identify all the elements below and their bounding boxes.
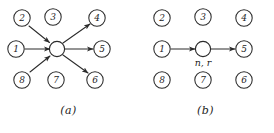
node-3-label: 3 xyxy=(50,12,56,22)
edge-hub-to-6 xyxy=(63,55,88,73)
panel-b-diagram: 2 3 4 1 5 8 7 xyxy=(137,0,274,100)
node-2-label: 2 xyxy=(158,13,165,23)
node-7-label: 7 xyxy=(200,75,206,85)
node-7: 7 xyxy=(195,72,211,88)
node-2: 2 xyxy=(14,10,30,26)
node-8: 8 xyxy=(14,72,30,88)
caption-a: (a) xyxy=(0,104,137,117)
node-4: 4 xyxy=(89,10,105,26)
node-6: 6 xyxy=(236,72,252,88)
node-6-label: 6 xyxy=(241,75,247,85)
node-1: 1 xyxy=(154,41,170,57)
node-8-label: 8 xyxy=(19,75,25,85)
node-4-label: 4 xyxy=(240,13,247,23)
node-5-label: 5 xyxy=(99,44,105,54)
node-6: 6 xyxy=(87,72,103,88)
node-4-label: 4 xyxy=(93,13,100,23)
edge-hub-to-4 xyxy=(63,24,90,43)
node-6-label: 6 xyxy=(92,75,98,85)
node-8-label: 8 xyxy=(159,75,165,85)
node-3: 3 xyxy=(45,9,61,25)
edge-8-to-hub xyxy=(30,56,50,72)
edge-2-to-hub xyxy=(29,26,50,43)
node-8: 8 xyxy=(154,72,170,88)
node-2-label: 2 xyxy=(18,13,25,23)
node-1-label: 1 xyxy=(159,44,165,54)
node-5-label: 5 xyxy=(241,44,247,54)
node-4: 4 xyxy=(236,10,252,26)
figure-container: 2 3 4 1 5 8 7 xyxy=(0,0,274,133)
node-5: 5 xyxy=(236,41,252,57)
center-node xyxy=(49,41,64,56)
node-1-label: 1 xyxy=(13,44,19,54)
node-3-label: 3 xyxy=(200,12,206,22)
node-5: 5 xyxy=(94,41,110,57)
node-1: 1 xyxy=(8,41,24,57)
node-3: 3 xyxy=(195,9,211,25)
panel-a-diagram: 2 3 4 1 5 8 7 xyxy=(0,0,137,100)
node-2: 2 xyxy=(154,10,170,26)
node-7: 7 xyxy=(48,72,64,88)
panel-b: 2 3 4 1 5 8 7 xyxy=(137,0,274,133)
node-7-label: 7 xyxy=(53,75,59,85)
caption-b: (b) xyxy=(137,104,274,117)
center-node-annotation: n, r xyxy=(195,57,213,68)
center-node xyxy=(195,41,210,56)
panel-a: 2 3 4 1 5 8 7 xyxy=(0,0,137,133)
